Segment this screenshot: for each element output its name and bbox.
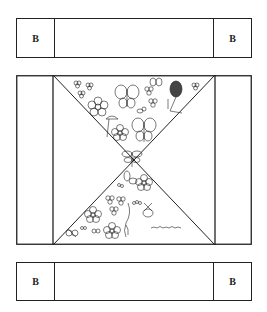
bottom-band: B B [16,262,252,301]
bottom-left-cell: B [17,263,55,300]
top-band: B B [16,18,252,58]
top-triangle-flowers [74,78,199,167]
bottom-right-cell: B [213,263,251,300]
top-right-cell: B [213,19,251,57]
bottom-triangle-flowers [66,171,181,239]
middle-panel [16,75,252,245]
top-left-cell: B [17,19,55,57]
top-center-cell [55,19,213,57]
bottom-center-cell [55,263,213,300]
